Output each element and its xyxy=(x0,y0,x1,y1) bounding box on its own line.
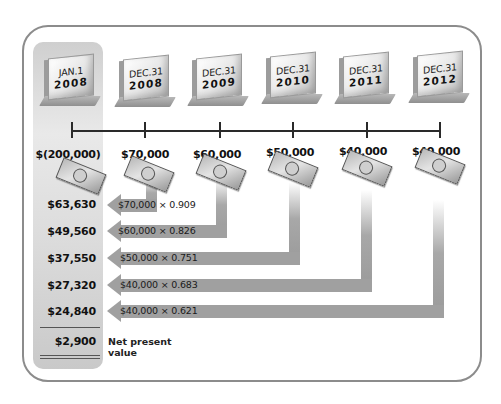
timeline-tick xyxy=(439,122,441,138)
date-block-jan1-2008: JAN.1 2008 xyxy=(42,52,98,110)
discount-calc: $70,000 × 0.909 xyxy=(118,199,195,210)
date-block-dec31-2010: DEC.31 2010 xyxy=(264,50,320,108)
portrait xyxy=(211,163,229,181)
present-value: $63,630 xyxy=(34,198,96,211)
left-arrow-icon xyxy=(107,247,121,269)
cash-flow-amount: $70,000 xyxy=(105,148,185,161)
calendar-block-icon: DEC.31 2008 xyxy=(123,55,169,102)
timeline-tick xyxy=(219,122,221,138)
net-present-value: $2,900 xyxy=(34,335,96,348)
date-year: 2012 xyxy=(423,72,457,88)
discount-calc: $50,000 × 0.751 xyxy=(120,252,197,263)
date-block-dec31-2008: DEC.31 2008 xyxy=(117,53,173,111)
date-block-dec31-2009: DEC.31 2009 xyxy=(190,52,246,110)
date-year: 2008 xyxy=(54,75,88,91)
calendar-block-icon: JAN.1 2008 xyxy=(48,54,94,101)
portrait xyxy=(283,160,301,178)
date-block-dec31-2011: DEC.31 2011 xyxy=(337,50,393,108)
calendar-block-icon: DEC.31 2011 xyxy=(343,52,389,99)
sum-rule xyxy=(40,327,100,328)
date-year: 2011 xyxy=(349,73,383,89)
discount-calc: $40,000 × 0.683 xyxy=(120,279,197,290)
arrow-stem-2011 xyxy=(361,190,372,291)
timeline-tick xyxy=(144,122,146,138)
discount-calc: $40,000 × 0.621 xyxy=(120,305,197,316)
timeline-tick xyxy=(366,122,368,138)
calendar-block-icon: DEC.31 2010 xyxy=(270,52,316,99)
present-value: $24,840 xyxy=(34,305,96,318)
net-present-value-label: Net present value xyxy=(108,336,172,358)
timeline-tick xyxy=(292,122,294,138)
double-rule-bottom xyxy=(40,358,100,359)
date-year: 2010 xyxy=(276,73,310,89)
npv-label-line1: Net present xyxy=(108,336,172,347)
timeline-axis xyxy=(72,130,440,132)
timeline-tick xyxy=(71,122,73,138)
double-rule-top xyxy=(40,355,100,356)
present-value: $49,560 xyxy=(34,225,96,238)
left-arrow-icon xyxy=(107,300,121,322)
portrait xyxy=(357,159,375,177)
present-value: $27,320 xyxy=(34,279,96,292)
present-value: $37,550 xyxy=(34,252,96,265)
portrait xyxy=(430,157,448,175)
calendar-block-icon: DEC.31 2012 xyxy=(417,51,463,98)
date-year: 2008 xyxy=(129,76,163,92)
calendar-block-icon: DEC.31 2009 xyxy=(196,54,242,101)
npv-label-line2: value xyxy=(108,347,172,358)
date-block-dec31-2012: DEC.31 2012 xyxy=(411,49,467,107)
discount-calc: $60,000 × 0.826 xyxy=(118,225,195,236)
left-arrow-icon xyxy=(107,274,121,296)
portrait xyxy=(71,167,89,185)
date-year: 2009 xyxy=(202,75,236,91)
portrait xyxy=(139,165,157,183)
arrow-stem-2012 xyxy=(433,200,444,318)
